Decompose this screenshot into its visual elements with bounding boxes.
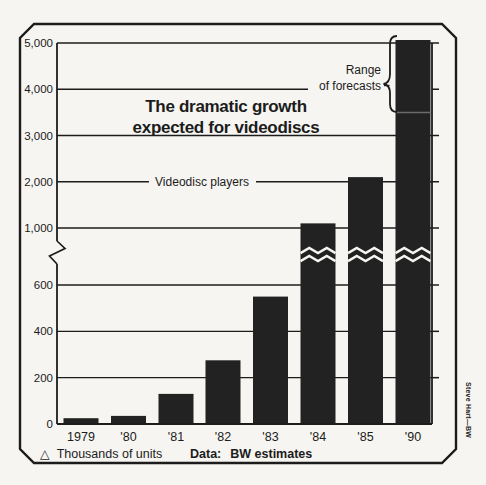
bar	[206, 360, 241, 424]
source-footnote: Data:BW estimates	[190, 447, 312, 461]
x-tick-label: '83	[262, 430, 278, 444]
videodisc-growth-chart: 5,0004,0003,0002,0001,00060040020001979'…	[0, 0, 486, 485]
y-tick-label: 400	[34, 325, 53, 337]
x-tick-label: '90	[405, 430, 421, 444]
y-tick-label: 600	[34, 279, 53, 291]
y-tick-label: 1,000	[24, 222, 53, 234]
x-tick-label: '81	[168, 430, 184, 444]
bar	[396, 40, 431, 424]
range-brace	[384, 36, 398, 112]
range-annotation-line1: Range	[346, 63, 382, 77]
y-tick-label: 4,000	[24, 83, 53, 95]
y-tick-label: 2,000	[24, 176, 53, 188]
x-tick-label: 1979	[67, 430, 95, 444]
y-tick-label: 3,000	[24, 130, 53, 142]
scanned-magazine-chart: 5,0004,0003,0002,0001,00060040020001979'…	[0, 0, 486, 485]
source-label: Data:	[190, 447, 221, 461]
units-footnote: △Thousands of units	[40, 447, 162, 461]
bar	[253, 297, 288, 424]
axis-break-zigzag	[50, 241, 66, 264]
chart-title-line1: The dramatic growth	[145, 97, 307, 116]
x-tick-label: '84	[310, 430, 326, 444]
units-footnote-text: Thousands of units	[57, 447, 163, 461]
bar	[348, 177, 383, 424]
bar	[159, 394, 194, 424]
y-tick-label: 0	[47, 418, 53, 430]
y-tick-label: 5,000	[24, 37, 53, 49]
range-annotation-line2: of forecasts	[319, 79, 381, 93]
chart-title-line2: expected for videodiscs	[133, 118, 320, 137]
x-tick-label: '80	[120, 430, 136, 444]
triangle-icon: △	[40, 447, 50, 461]
x-tick-label: '85	[357, 430, 373, 444]
y-tick-label: 200	[34, 372, 53, 384]
bar	[111, 416, 146, 424]
x-tick-label: '82	[215, 430, 231, 444]
series-label: Videodisc players	[155, 175, 249, 189]
source-value: BW estimates	[230, 447, 312, 461]
artist-credit: Steve Hart—BW	[465, 382, 472, 438]
